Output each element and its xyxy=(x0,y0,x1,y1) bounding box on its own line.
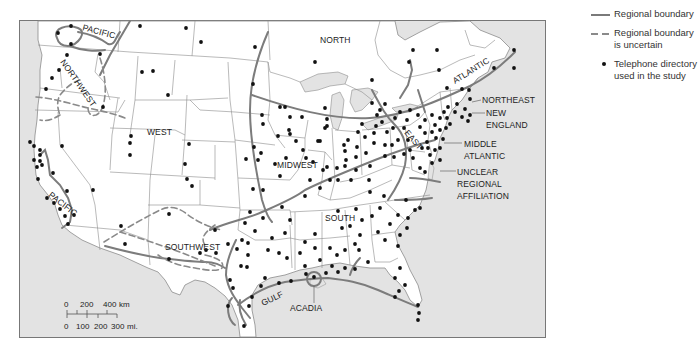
legend-item-regional-boundary: Regional boundary xyxy=(590,8,698,20)
scale-km-400: 400 km xyxy=(103,300,130,309)
label-southwest: SOUTHWEST xyxy=(165,242,220,252)
label-northeast: NORTHEAST xyxy=(482,95,535,105)
legend-label: Telephone directory used in the study xyxy=(614,58,698,82)
label-unclear-1: UNCLEAR xyxy=(457,167,498,177)
legend-item-telephone-directory: Telephone directory used in the study xyxy=(590,58,698,82)
scale-mi-0: 0 xyxy=(64,322,69,331)
label-west: WEST xyxy=(147,127,172,137)
label-north: NORTH xyxy=(320,35,351,45)
legend-label-line2: used in the study xyxy=(614,70,686,81)
dot-icon xyxy=(600,58,614,70)
label-middle-atlantic-1: MIDDLE xyxy=(464,139,497,149)
label-new-england-1: NEW xyxy=(486,108,506,118)
label-acadia: ACADIA xyxy=(290,303,322,313)
map-legend: Regional boundary Regional boundary is u… xyxy=(590,8,698,89)
label-middle-atlantic-2: ATLANTIC xyxy=(464,151,505,161)
dashed-line-icon xyxy=(590,27,614,39)
label-midwest: MIDWEST xyxy=(277,160,318,170)
label-new-england-2: ENGLAND xyxy=(486,120,528,130)
label-unclear-3: AFFILIATION xyxy=(457,191,509,201)
scale-mi-100: 100 xyxy=(76,322,90,331)
scale-mi-300: 300 mi. xyxy=(111,322,138,331)
legend-label-line2: is uncertain xyxy=(614,39,663,50)
legend-label-line1: Regional boundary xyxy=(614,27,694,38)
legend-label: Regional boundary xyxy=(614,8,698,20)
legend-label-line1: Telephone directory xyxy=(614,58,697,69)
solid-line-icon xyxy=(590,8,614,20)
label-unclear-2: REGIONAL xyxy=(457,179,502,189)
scale-km-200: 200 xyxy=(80,300,94,309)
label-south: SOUTH xyxy=(325,213,355,223)
scale-km-0: 0 xyxy=(64,300,69,309)
legend-item-uncertain-boundary: Regional boundary is uncertain xyxy=(590,27,698,51)
scale-mi-200: 200 xyxy=(94,322,108,331)
legend-label: Regional boundary is uncertain xyxy=(614,27,698,51)
